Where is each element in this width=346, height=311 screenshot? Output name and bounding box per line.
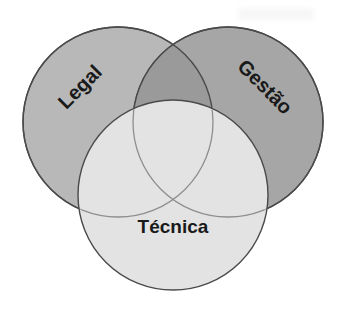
venn-diagram-figure: Legal Gestão Técnica: [0, 0, 346, 311]
set-label-tecnica: Técnica: [138, 216, 209, 237]
set-circle-tecnica: [78, 100, 268, 290]
venn-diagram-canvas: Legal Gestão Técnica: [0, 0, 346, 311]
